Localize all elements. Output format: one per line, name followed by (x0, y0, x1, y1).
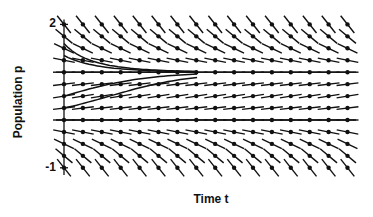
slope-point (308, 58, 312, 62)
slope-point (156, 142, 160, 146)
slope-point (251, 154, 255, 158)
slope-point (194, 82, 198, 86)
slope-point (137, 82, 141, 86)
slope-point (62, 70, 66, 74)
slope-point (232, 154, 236, 158)
slope-point (251, 106, 255, 110)
slope-point (289, 34, 293, 38)
slope-point (213, 70, 217, 74)
slope-point (81, 130, 85, 134)
slope-point (345, 34, 349, 38)
slope-point (232, 34, 236, 38)
slope-point (100, 70, 104, 74)
slope-point (175, 166, 179, 170)
slope-point (308, 46, 312, 50)
slope-point (345, 46, 349, 50)
slope-point (62, 130, 66, 134)
slope-point (289, 142, 293, 146)
slope-point (345, 118, 349, 122)
slope-point (194, 106, 198, 110)
slope-point (156, 34, 160, 38)
slope-point (213, 142, 217, 146)
slope-point (119, 22, 123, 26)
slope-point (156, 118, 160, 122)
slope-point (270, 82, 274, 86)
slope-point (213, 22, 217, 26)
slope-point (270, 154, 274, 158)
slope-point (62, 58, 66, 62)
slope-point (137, 166, 141, 170)
slope-point (175, 82, 179, 86)
slope-point (137, 22, 141, 26)
slope-point (232, 106, 236, 110)
slope-point (345, 94, 349, 98)
slope-point (119, 130, 123, 134)
slope-point (308, 142, 312, 146)
slope-point (289, 46, 293, 50)
slope-point (137, 34, 141, 38)
slope-point (213, 58, 217, 62)
slope-point (81, 46, 85, 50)
slope-point (100, 154, 104, 158)
slope-point (270, 34, 274, 38)
slope-point (137, 142, 141, 146)
slope-point (270, 106, 274, 110)
slope-point (156, 94, 160, 98)
slope-point (232, 130, 236, 134)
y-axis-label: Population p (11, 66, 25, 139)
slope-point (326, 130, 330, 134)
slope-point (213, 118, 217, 122)
slope-point (156, 154, 160, 158)
slope-point (326, 166, 330, 170)
slope-point (270, 58, 274, 62)
slope-point (345, 82, 349, 86)
slope-point (137, 154, 141, 158)
slope-point (270, 22, 274, 26)
slope-point (137, 46, 141, 50)
slope-point (81, 70, 85, 74)
slope-point (62, 142, 66, 146)
slope-point (251, 34, 255, 38)
slope-point (251, 166, 255, 170)
slope-point (194, 46, 198, 50)
slope-point (100, 34, 104, 38)
slope-point (119, 166, 123, 170)
slope-point (213, 46, 217, 50)
slope-point (289, 166, 293, 170)
slope-point (62, 166, 66, 170)
slope-point (156, 46, 160, 50)
slope-point (251, 142, 255, 146)
slope-point (232, 46, 236, 50)
slope-point (175, 46, 179, 50)
slope-point (326, 94, 330, 98)
slope-point (345, 58, 349, 62)
slope-point (232, 22, 236, 26)
slope-point (232, 142, 236, 146)
slope-point (308, 34, 312, 38)
slope-point (81, 94, 85, 98)
slope-point (326, 142, 330, 146)
slope-point (326, 82, 330, 86)
slope-point (289, 118, 293, 122)
slope-point (81, 34, 85, 38)
slope-point (345, 142, 349, 146)
slope-point (156, 130, 160, 134)
slope-point (81, 166, 85, 170)
slope-point (194, 142, 198, 146)
slope-point (194, 118, 198, 122)
slope-point (326, 34, 330, 38)
slope-point (62, 118, 66, 122)
slope-point (156, 106, 160, 110)
slope-point (308, 130, 312, 134)
slope-point (119, 70, 123, 74)
slope-point (289, 94, 293, 98)
slope-point (345, 130, 349, 134)
slope-point (194, 58, 198, 62)
slope-point (289, 130, 293, 134)
slope-point (251, 82, 255, 86)
slope-point (345, 22, 349, 26)
slope-point (119, 142, 123, 146)
slope-point (251, 70, 255, 74)
slope-point (270, 70, 274, 74)
slope-point (232, 166, 236, 170)
